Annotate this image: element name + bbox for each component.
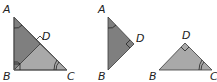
- label-b: B: [3, 70, 11, 82]
- label-d: D: [136, 32, 144, 45]
- label-c: C: [67, 70, 75, 82]
- label-b: B: [98, 70, 106, 82]
- label-a: A: [2, 3, 11, 16]
- label-d: D: [42, 30, 50, 43]
- label-d: D: [182, 29, 190, 42]
- label-c: C: [210, 70, 217, 82]
- label-a: A: [97, 3, 106, 16]
- triangle-bdc: D B C: [149, 29, 217, 82]
- triangle-abc: A D B C: [2, 3, 75, 82]
- triangle-abd: A D B: [97, 3, 144, 82]
- label-b: B: [149, 70, 157, 82]
- similar-triangles-diagram: A D B C A D B D B C: [0, 0, 217, 82]
